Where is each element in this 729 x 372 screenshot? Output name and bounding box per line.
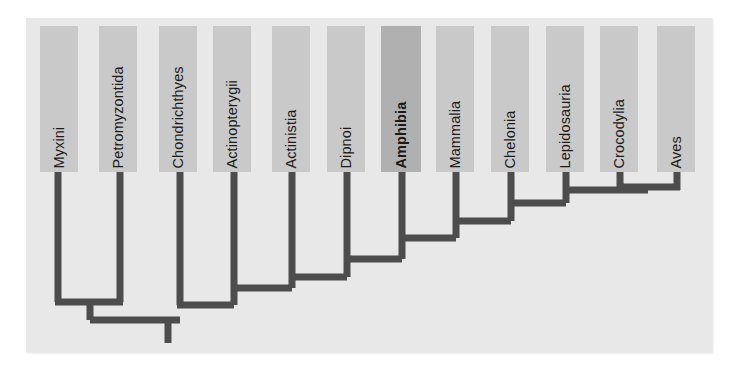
cladogram-branches (0, 0, 729, 372)
cladogram-figure: Myxini Petromyzontida Chondrichthyes Act… (0, 0, 729, 372)
